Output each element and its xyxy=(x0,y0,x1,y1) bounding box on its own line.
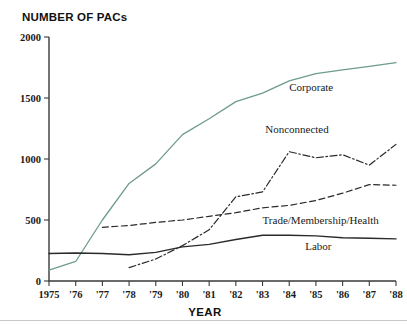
series-group xyxy=(49,63,396,270)
chart-title: NUMBER OF PACs xyxy=(22,11,127,23)
y-tick-label: 1000 xyxy=(20,154,41,165)
x-tick-label: '76 xyxy=(69,289,82,300)
series-label-corporate: Corporate xyxy=(289,81,333,93)
x-tick-label: '80 xyxy=(176,289,189,300)
y-tick-label: 500 xyxy=(25,215,41,226)
x-axis-title: YEAR xyxy=(188,306,222,318)
x-tick-label: '83 xyxy=(256,289,269,300)
x-tick-label: '88 xyxy=(389,289,402,300)
footer-divider xyxy=(0,320,407,321)
pac-growth-line-chart: NUMBER OF PACs 0500100015002000 1975'76'… xyxy=(0,0,407,325)
y-tick-label: 0 xyxy=(36,276,41,287)
axis-frame xyxy=(49,37,396,281)
series-line-labor xyxy=(49,235,396,255)
x-tick-label: '85 xyxy=(309,289,322,300)
x-tick-label: '78 xyxy=(122,289,135,300)
y-tick-label: 1500 xyxy=(20,93,41,104)
x-tick-label: '87 xyxy=(363,289,376,300)
series-line-corporate xyxy=(49,63,396,270)
x-tick-label: '86 xyxy=(336,289,349,300)
series-label-labor: Labor xyxy=(305,240,332,252)
y-tick-label: 2000 xyxy=(20,32,41,43)
chart-figure: NUMBER OF PACs 0500100015002000 1975'76'… xyxy=(0,0,407,325)
x-tick-label: '81 xyxy=(202,289,215,300)
x-tick-label: '79 xyxy=(149,289,162,300)
x-tick-label: '84 xyxy=(283,289,297,300)
series-label-nonconnected: Nonconnected xyxy=(265,123,329,135)
x-tick-label: 1975 xyxy=(39,289,60,300)
x-tick-label: '77 xyxy=(96,289,109,300)
series-label-trade-membership-health: Trade/Membership/Health xyxy=(263,214,380,226)
y-axis-tick-group: 0500100015002000 xyxy=(20,32,49,287)
x-tick-label: '82 xyxy=(229,289,242,300)
x-axis-tick-group: 1975'76'77'78'79'80'81'82'83'84'85'86'87… xyxy=(39,281,403,300)
